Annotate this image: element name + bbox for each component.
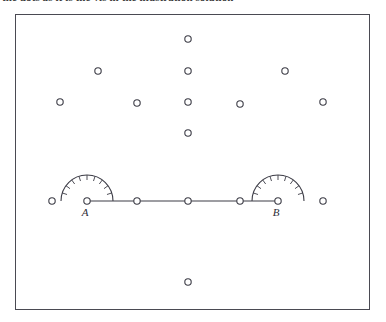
figure-caption-text: the dots as it is the vis in the illustr… xyxy=(2,0,234,3)
figure-caption-strip: the dots as it is the vis in the illustr… xyxy=(0,0,386,9)
figure-border xyxy=(15,14,370,310)
